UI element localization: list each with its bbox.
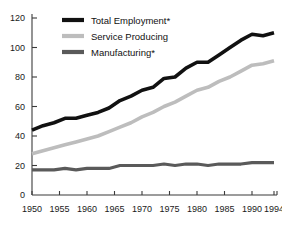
y-tick-label: 40: [15, 131, 25, 141]
x-tick-label: 1960: [77, 204, 97, 214]
y-tick-label: 20: [15, 161, 25, 171]
x-axis-tick-labels: 1950195519601965197019751980198519901994: [22, 204, 282, 214]
x-tick-label: 1985: [214, 204, 234, 214]
x-tick-label: 1980: [187, 204, 207, 214]
y-tick-label: 60: [15, 102, 25, 112]
x-tick-label: 1990: [242, 204, 262, 214]
chart-canvas: 020406080100120 195019551960196519701975…: [0, 0, 282, 227]
legend-swatch: [62, 18, 84, 22]
y-tick-label: 100: [10, 43, 25, 53]
y-tick-label: 80: [15, 72, 25, 82]
x-tick-label: 1975: [159, 204, 179, 214]
legend-label: Service Producing: [91, 31, 168, 42]
legend-label: Manufacturing*: [91, 47, 155, 58]
x-tick-label: 1970: [132, 204, 152, 214]
x-tick-label: 1965: [104, 204, 124, 214]
x-tick-label: 1994: [264, 204, 282, 214]
legend-swatch: [62, 50, 84, 54]
legend-swatch: [62, 34, 84, 38]
y-tick-label: 0: [20, 190, 25, 200]
x-tick-label: 1950: [22, 204, 42, 214]
x-tick-label: 1955: [49, 204, 69, 214]
legend-label: Total Employment*: [91, 15, 171, 26]
y-tick-label: 120: [10, 13, 25, 23]
employment-line-chart: 020406080100120 195019551960196519701975…: [0, 0, 282, 227]
chart-legend: Total Employment*Service ProducingManufa…: [62, 15, 171, 58]
